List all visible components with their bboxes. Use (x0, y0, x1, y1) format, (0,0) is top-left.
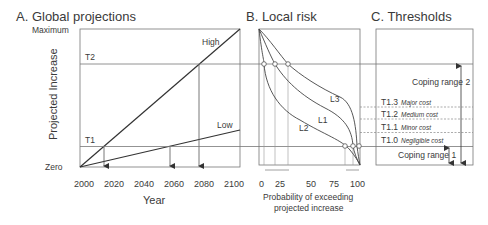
y-axis-label: Projected Increase (47, 48, 59, 140)
threshold-t1-0: T1.0 Negligible cost (381, 135, 444, 145)
svg-text:Negligible cost: Negligible cost (401, 137, 444, 145)
svg-text:25: 25 (275, 179, 285, 189)
low-label: Low (217, 120, 233, 130)
panel-local-risk: B. Local risk L3 L1 L2 0 (246, 9, 365, 213)
y-label-maximum: Maximum (32, 25, 69, 35)
svg-text:2000: 2000 (74, 179, 94, 189)
svg-text:75: 75 (329, 179, 339, 189)
panel-b-title: B. Local risk (246, 9, 317, 24)
threshold-t1-2: T1.2 Medium cost (381, 109, 439, 119)
svg-text:2020: 2020 (104, 179, 124, 189)
svg-text:Minor cost: Minor cost (401, 124, 432, 131)
svg-text:2080: 2080 (194, 179, 214, 189)
coping-range-1-label: Coping range 1 (398, 150, 456, 160)
figure: A. Global projections Maximum Zero Proje… (0, 0, 488, 225)
svg-text:T1.3: T1.3 (381, 97, 398, 107)
x-axis-label-b-line2: projected increase (274, 203, 344, 213)
svg-text:0: 0 (259, 179, 264, 189)
t2-label: T2 (85, 52, 95, 62)
svg-text:2060: 2060 (164, 179, 184, 189)
coping-range-2-label: Coping range 2 (412, 77, 470, 87)
x-axis-label-b-line1: Probability of exceeding (263, 192, 354, 202)
svg-text:2040: 2040 (134, 179, 154, 189)
threshold-t1-1: T1.1 Minor cost (381, 122, 432, 132)
svg-text:Major cost: Major cost (401, 99, 432, 107)
svg-text:T1.0: T1.0 (381, 135, 398, 145)
panel-thresholds: C. Thresholds Coping range 2 Coping rang… (360, 9, 473, 165)
panel-global-projections: A. Global projections Maximum Zero Proje… (16, 9, 244, 206)
y-label-zero: Zero (45, 162, 63, 172)
svg-text:Medium cost: Medium cost (401, 111, 439, 118)
curve-label-l1: L1 (318, 115, 328, 125)
curve-label-l3: L3 (330, 94, 340, 104)
svg-text:2100: 2100 (224, 179, 244, 189)
t1-label: T1 (85, 135, 95, 145)
panel-a-title: A. Global projections (16, 9, 136, 24)
curve-label-l2: L2 (299, 123, 309, 133)
panel-c-title: C. Thresholds (371, 9, 452, 24)
threshold-t1-3: T1.3 Major cost (381, 97, 432, 107)
x-tick-labels-b: 0 25 50 75 100 (259, 179, 365, 189)
svg-text:50: 50 (306, 179, 316, 189)
high-label: High (202, 37, 220, 47)
svg-text:T1.1: T1.1 (381, 122, 398, 132)
svg-text:T1.2: T1.2 (381, 109, 398, 119)
intersection-markers (262, 62, 362, 149)
svg-text:100: 100 (350, 179, 365, 189)
x-axis-label-year: Year (143, 194, 166, 206)
x-tick-labels-a: 2000 2020 2040 2060 2080 2100 (74, 179, 244, 189)
probability-drop-lines (264, 64, 353, 165)
